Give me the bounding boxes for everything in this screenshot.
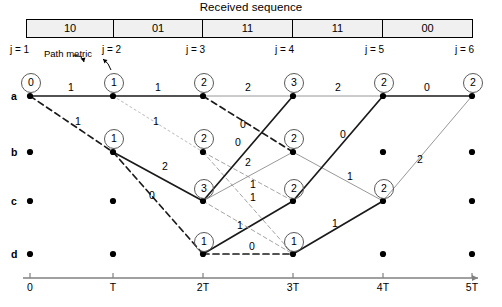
path-metric-value: 2 [194, 129, 214, 149]
trellis-node [469, 149, 475, 155]
trellis-node [110, 198, 116, 204]
branch-metric-label: 0 [144, 189, 160, 201]
time-axis-tick-label: 4T [368, 281, 398, 293]
time-axis-layer [23, 273, 478, 281]
trellis-branch [293, 96, 383, 201]
path-metric-value: 2 [284, 129, 304, 149]
trellis-node [110, 93, 116, 99]
trellis-node [27, 198, 33, 204]
trellis-branch [293, 152, 383, 201]
time-axis-tick-label: 2T [188, 281, 218, 293]
branch-metric-label: 1 [245, 178, 261, 190]
path-metric-value: 3 [284, 73, 304, 93]
path-metric-value: 1 [104, 73, 124, 93]
path-metric-value: 2 [374, 73, 394, 93]
trellis-branch [383, 96, 472, 201]
trellis-node [200, 93, 206, 99]
branch-metric-label: 2 [412, 153, 428, 165]
time-axis-tick-label: 3T [278, 281, 308, 293]
branch-metric-label: 2 [240, 156, 256, 168]
trellis-node [380, 251, 386, 257]
trellis-node [380, 93, 386, 99]
branch-metric-label: 0 [235, 118, 251, 130]
branch-metric-label: 2 [240, 81, 256, 93]
trellis-node [290, 93, 296, 99]
branch-metric-label: 2 [330, 81, 346, 93]
path-metric-arrows [73, 56, 111, 70]
path-metric-value: 1 [194, 232, 214, 252]
branch-metric-label: 1 [342, 170, 358, 182]
edges-layer [30, 96, 472, 254]
branch-metric-label: 0 [244, 240, 260, 252]
trellis-diagram: Received sequence 1001111100 j = 1j = 2j… [0, 0, 502, 307]
branch-metric-label: 1 [148, 115, 164, 127]
branch-metric-label: 2 [157, 160, 173, 172]
time-axis-tick-label: 5T [457, 281, 487, 293]
path-metric-value: 1 [104, 129, 124, 149]
path-metric-value: 2 [374, 179, 394, 199]
trellis-node [27, 149, 33, 155]
branch-metric-label: 1 [232, 219, 248, 231]
trellis-node [469, 251, 475, 257]
trellis-node [27, 251, 33, 257]
trellis-node [469, 198, 475, 204]
branch-metric-label: 1 [63, 81, 79, 93]
trellis-node [200, 149, 206, 155]
path-metric-value: 0 [21, 73, 41, 93]
trellis-node [27, 93, 33, 99]
branch-metric-label: 0 [335, 128, 351, 140]
trellis-node [110, 251, 116, 257]
trellis-node [380, 149, 386, 155]
branch-metric-label: 0 [419, 81, 435, 93]
branch-metric-label: 1 [150, 81, 166, 93]
path-metric-value: 1 [284, 232, 304, 252]
trellis-node [469, 93, 475, 99]
branch-metric-label: 0 [230, 136, 246, 148]
path-metric-value: 2 [463, 73, 483, 93]
trellis-node [290, 149, 296, 155]
branch-metric-label: 1 [245, 191, 261, 203]
path-metric-value: 3 [194, 179, 214, 199]
branch-metric-label: 1 [70, 115, 86, 127]
time-axis-tick-label: T [98, 281, 128, 293]
path-metric-value: 2 [284, 179, 304, 199]
path-metric-value: 2 [194, 73, 214, 93]
trellis-node [110, 149, 116, 155]
time-axis-tick-label: 0 [15, 281, 45, 293]
branch-metric-label: 1 [327, 217, 343, 229]
